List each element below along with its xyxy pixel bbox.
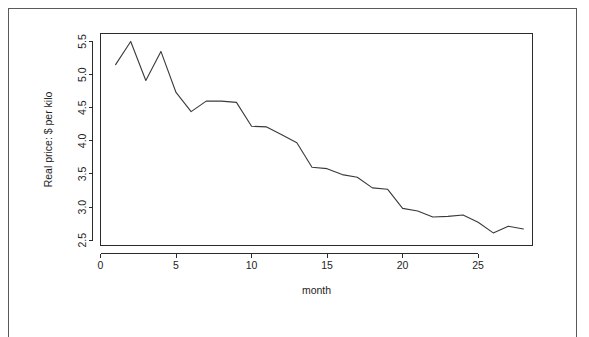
- y-axis-title: Real price: $ per kilo: [42, 91, 54, 187]
- x-tick-label: 10: [246, 259, 258, 271]
- x-tick-label: 25: [472, 259, 484, 271]
- line-chart-canvas: 2.53.03.54.04.55.05.5 Real price: $ per …: [0, 0, 589, 337]
- y-tick-label: 4.0: [76, 133, 88, 148]
- x-axis-ticks: [101, 254, 479, 258]
- x-tick-label: 0: [98, 259, 104, 271]
- x-tick-label: 5: [173, 259, 179, 271]
- y-tick-label: 5.0: [76, 67, 88, 82]
- x-tick-label: 20: [397, 259, 409, 271]
- y-axis-ticks: [89, 41, 93, 240]
- x-axis-tick-labels: 0510152025: [98, 259, 485, 271]
- data-series-line: [116, 41, 524, 232]
- y-tick-label: 4.5: [76, 100, 88, 115]
- y-tick-label: 3.5: [76, 166, 88, 181]
- x-axis-title: month: [302, 284, 331, 296]
- y-axis: 2.53.03.54.04.55.05.5 Real price: $ per …: [42, 34, 93, 248]
- y-tick-label: 5.5: [76, 34, 88, 49]
- y-tick-label: 3.0: [76, 200, 88, 215]
- chart-figure: 2.53.03.54.04.55.05.5 Real price: $ per …: [0, 0, 589, 337]
- x-tick-label: 15: [321, 259, 333, 271]
- plot-area-frame: [101, 34, 533, 246]
- y-axis-tick-labels: 2.53.03.54.04.55.05.5: [76, 34, 88, 248]
- y-tick-label: 2.5: [76, 233, 88, 248]
- x-axis: 0510152025 month: [98, 254, 485, 297]
